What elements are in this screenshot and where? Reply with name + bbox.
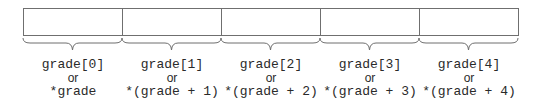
- brace-3: [320, 38, 419, 50]
- pointer-label-0: *grade: [21, 85, 125, 98]
- pointer-label-1: *(grade + 1): [120, 85, 224, 98]
- subscript-label-0: grade[0]: [21, 58, 125, 71]
- brace-1: [122, 38, 221, 50]
- brace-0: [23, 38, 122, 50]
- or-label-0: or: [21, 72, 125, 84]
- array-cell-0: [23, 8, 123, 36]
- subscript-label-1: grade[1]: [120, 58, 224, 71]
- subscript-label-2: grade[2]: [219, 58, 323, 71]
- array-cell-4: [419, 8, 519, 36]
- subscript-label-3: grade[3]: [318, 58, 422, 71]
- brace-4: [419, 38, 518, 50]
- subscript-label-4: grade[4]: [417, 58, 521, 71]
- or-label-1: or: [120, 72, 224, 84]
- array-memory-diagram: grade[0] or *grade grade[1] or *(grade +…: [0, 0, 540, 103]
- array-cell-1: [122, 8, 222, 36]
- array-cell-3: [320, 8, 420, 36]
- pointer-label-4: *(grade + 4): [417, 85, 521, 98]
- or-label-2: or: [219, 72, 323, 84]
- curly-braces: [0, 36, 540, 56]
- brace-2: [221, 38, 320, 50]
- or-label-4: or: [417, 72, 521, 84]
- or-label-3: or: [318, 72, 422, 84]
- pointer-label-2: *(grade + 2): [219, 85, 323, 98]
- pointer-label-3: *(grade + 3): [318, 85, 422, 98]
- array-cell-2: [221, 8, 321, 36]
